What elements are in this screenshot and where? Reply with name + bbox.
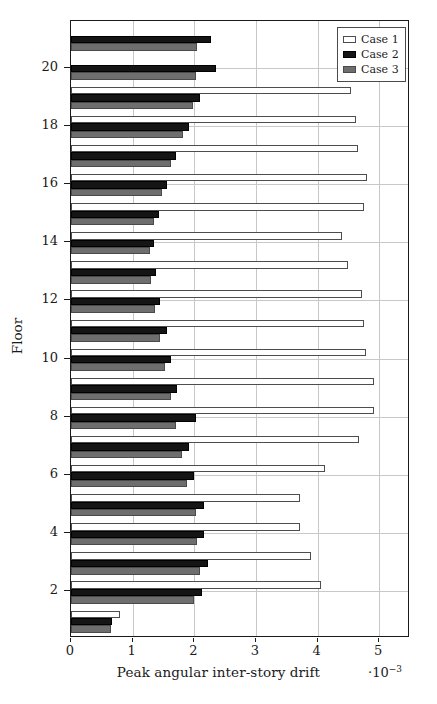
bar-case-3-floor-20: [71, 72, 196, 79]
bar-case-3-floor-15: [71, 218, 154, 225]
bar-case-1-floor-10: [71, 349, 366, 356]
bar-case-3-floor-16: [71, 189, 162, 196]
legend-label-case-2: Case 2: [361, 49, 399, 60]
bar-case-2-floor-8: [71, 414, 196, 421]
bar-case-1-floor-11: [71, 320, 364, 327]
bar-case-2-floor-2: [71, 589, 202, 596]
bar-case-3-floor-4: [71, 538, 197, 545]
bar-case-3-floor-7: [71, 451, 182, 458]
bar-case-1-floor-12: [71, 290, 362, 297]
bar-case-2-floor-21: [71, 36, 211, 43]
bar-case-3-floor-13: [71, 276, 151, 283]
x-tick: [255, 638, 256, 642]
legend-swatch-case-2: [343, 51, 356, 58]
bar-case-2-floor-13: [71, 269, 156, 276]
bar-case-3-floor-19: [71, 102, 193, 109]
x-tick: [317, 638, 318, 642]
y-tick-label: 16: [0, 176, 58, 190]
bar-case-3-floor-14: [71, 247, 150, 254]
y-tick: [64, 532, 70, 533]
y-tick-label: 8: [0, 409, 58, 423]
x-axis-exponent: ·10−3: [368, 664, 402, 680]
y-tick-label: 6: [0, 467, 58, 481]
bar-case-2-floor-19: [71, 94, 200, 101]
legend-swatch-case-1: [343, 36, 356, 43]
bar-case-2-floor-14: [71, 240, 154, 247]
y-tick: [64, 125, 70, 126]
y-tick-label: 18: [0, 118, 58, 132]
legend-label-case-3: Case 3: [361, 64, 399, 75]
bar-case-3-floor-18: [71, 131, 183, 138]
bar-case-2-floor-17: [71, 152, 176, 159]
bar-case-1-floor-17: [71, 145, 358, 152]
bar-case-2-floor-16: [71, 181, 167, 188]
x-tick: [378, 638, 379, 642]
y-tick: [64, 183, 70, 184]
x-gridline: [379, 21, 380, 636]
y-tick-label: 14: [0, 234, 58, 248]
y-tick-label: 4: [0, 525, 58, 539]
bar-case-2-floor-6: [71, 472, 194, 479]
bar-case-2-floor-4: [71, 531, 204, 538]
bar-case-1-floor-3: [71, 552, 311, 559]
bar-case-2-floor-5: [71, 502, 204, 509]
bar-case-2-floor-11: [71, 327, 167, 334]
bar-case-2-floor-10: [71, 356, 171, 363]
figure: Floor Peak angular inter-story drift ·10…: [0, 0, 437, 704]
bar-case-1-floor-5: [71, 494, 300, 501]
x-tick: [193, 638, 194, 642]
y-tick: [64, 67, 70, 68]
bar-case-3-floor-3: [71, 567, 200, 574]
bar-case-1-floor-6: [71, 465, 325, 472]
bar-case-2-floor-20: [71, 65, 216, 72]
y-tick-label: 2: [0, 583, 58, 597]
y-tick-label: 10: [0, 351, 58, 365]
x-tick-label: 0: [66, 643, 74, 658]
x-tick-label: 1: [127, 643, 135, 658]
y-tick-label: 12: [0, 292, 58, 306]
legend: Case 1 Case 2 Case 3: [337, 27, 406, 82]
x-tick: [132, 638, 133, 642]
bar-case-3-floor-2: [71, 596, 194, 603]
bar-case-1-floor-8: [71, 407, 374, 414]
y-tick-label: 20: [0, 60, 58, 74]
bar-case-1-floor-14: [71, 232, 342, 239]
x-tick-label: 3: [251, 643, 259, 658]
bar-case-1-floor-2: [71, 581, 321, 588]
x-gridline: [256, 21, 257, 636]
legend-item-case-3: Case 3: [343, 62, 399, 77]
bar-case-3-floor-11: [71, 334, 160, 341]
bar-case-3-floor-9: [71, 393, 171, 400]
x-tick-label: 5: [374, 643, 382, 658]
y-tick: [64, 474, 70, 475]
bar-case-1-floor-15: [71, 203, 364, 210]
bar-case-2-floor-7: [71, 443, 189, 450]
bar-case-3-floor-12: [71, 305, 155, 312]
x-gridline: [318, 21, 319, 636]
bar-case-3-floor-6: [71, 480, 187, 487]
x-tick: [70, 638, 71, 642]
bar-case-1-floor-18: [71, 116, 356, 123]
y-tick: [64, 299, 70, 300]
legend-item-case-1: Case 1: [343, 32, 399, 47]
y-tick: [64, 358, 70, 359]
bar-case-1-floor-4: [71, 523, 300, 530]
bar-case-2-floor-12: [71, 298, 160, 305]
x-tick-label: 2: [189, 643, 197, 658]
legend-swatch-case-3: [343, 66, 356, 73]
y-tick: [64, 241, 70, 242]
bar-case-1-floor-7: [71, 436, 359, 443]
legend-label-case-1: Case 1: [361, 34, 399, 45]
y-tick: [64, 416, 70, 417]
legend-item-case-2: Case 2: [343, 47, 399, 62]
bar-case-2-floor-18: [71, 123, 189, 130]
bar-case-1-floor-19: [71, 87, 351, 94]
plot-area: [70, 20, 409, 637]
bar-case-1-floor-13: [71, 261, 348, 268]
bar-case-2-floor-1: [71, 618, 112, 625]
bar-case-1-floor-9: [71, 378, 374, 385]
bar-case-3-floor-17: [71, 160, 171, 167]
bar-case-3-floor-8: [71, 422, 176, 429]
bar-case-2-floor-15: [71, 211, 159, 218]
bar-case-1-floor-16: [71, 174, 367, 181]
